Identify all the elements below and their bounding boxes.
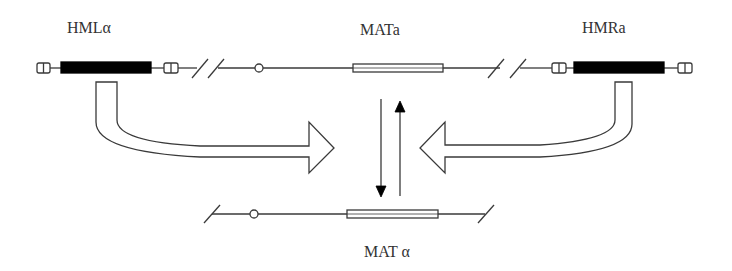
hml-flank-right (164, 63, 178, 73)
hmr-a-label: HMRa (582, 20, 626, 36)
mat-alpha-label: MAT α (364, 244, 410, 260)
hml-flank-left (37, 63, 50, 73)
hml-alpha-label: HMLα (67, 20, 111, 36)
bottom-chromosome (204, 205, 494, 223)
centromere-icon (255, 64, 263, 72)
arrowhead-down-icon (376, 186, 386, 197)
hml-to-mat-arrow (96, 82, 334, 173)
hmr-a-cassette (574, 62, 664, 73)
hml-alpha-cassette (61, 62, 151, 73)
arrowhead-up-icon (395, 101, 405, 112)
mata-to-matalpha-arrow (376, 99, 386, 197)
hmr-flank-left (552, 63, 566, 73)
hmr-flank-right (678, 63, 692, 73)
diagram-canvas (0, 0, 732, 271)
matalpha-to-mata-arrow (395, 101, 405, 196)
mat-a-label: MATa (360, 22, 400, 38)
hmr-to-mat-arrow (420, 82, 632, 173)
centromere-icon (250, 210, 258, 218)
